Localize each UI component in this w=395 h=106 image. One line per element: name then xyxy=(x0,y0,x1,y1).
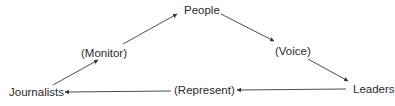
edge-label-represent: (Represent) xyxy=(174,84,235,97)
arrow-people-to-voice xyxy=(221,14,274,41)
arrow-leaders-to-represent xyxy=(237,89,346,90)
arrow-journalists-to-monitor xyxy=(53,60,98,85)
edge-label-voice: (Voice) xyxy=(275,45,311,58)
arrow-monitor-to-people xyxy=(123,14,177,44)
arrow-voice-to-leaders xyxy=(308,59,348,81)
edge-label-monitor: (Monitor) xyxy=(81,47,127,60)
node-people: People xyxy=(184,4,220,17)
node-leaders: Leaders xyxy=(353,83,395,96)
node-journalists: Journalists xyxy=(9,86,64,99)
arrow-represent-to-journalists xyxy=(65,91,171,92)
